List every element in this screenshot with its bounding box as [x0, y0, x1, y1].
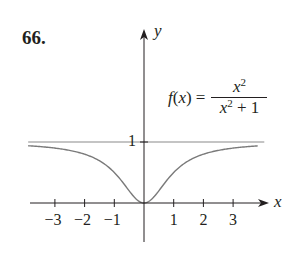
function-formula: f(x) = x2 x2 + 1 — [168, 78, 267, 117]
y-tick-label: 1 — [128, 132, 136, 150]
curve-path — [28, 146, 258, 203]
formula-denominator: x2 + 1 — [218, 98, 262, 117]
y-axis-label: y — [154, 21, 162, 41]
chart: 66. y x −3−2−1123 1 f(x) = x2 x2 + 1 — [0, 0, 305, 258]
x-tick-label: 2 — [199, 211, 207, 229]
formula-fraction: x2 x2 + 1 — [211, 78, 267, 117]
x-tick-label: −2 — [74, 211, 91, 229]
x-tick-label: −1 — [104, 211, 121, 229]
x-tick-label: −3 — [44, 211, 61, 229]
function-curve — [28, 146, 258, 203]
formula-lhs: f(x) = — [168, 88, 205, 108]
x-tick-label: 3 — [229, 211, 237, 229]
x-axis-label: x — [274, 192, 282, 212]
x-tick-label: 1 — [170, 211, 178, 229]
formula-numerator: x2 — [231, 78, 248, 97]
